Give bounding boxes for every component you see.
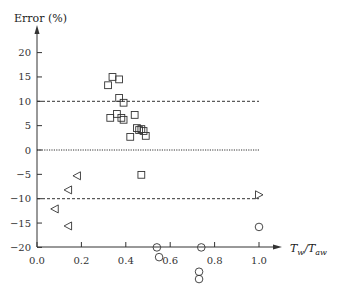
square-marker — [120, 116, 127, 123]
square-marker — [131, 112, 138, 119]
y-tick-label: −10 — [10, 193, 31, 204]
y-tick-label: 15 — [18, 71, 31, 82]
circle-marker — [195, 268, 203, 276]
y-tick-label: 20 — [18, 47, 31, 58]
y-tick-label: −20 — [10, 242, 31, 253]
x-tick-label: 0.6 — [162, 255, 178, 266]
square-marker — [118, 114, 125, 121]
scatter-chart: 20151050−5−10−15−20 0.00.20.40.60.81.0 E… — [0, 0, 338, 293]
y-tick-label: 5 — [25, 120, 31, 131]
x-tick-label: 0.0 — [29, 255, 45, 266]
square-marker — [138, 171, 145, 178]
x-axis-label: Tw/Taw — [290, 242, 327, 257]
triangle-left-marker — [51, 205, 59, 213]
reference-lines — [37, 101, 259, 198]
triangle-left-marker — [64, 222, 72, 230]
square-marker — [127, 133, 134, 140]
y-axis-arrow — [35, 25, 40, 34]
y-tick-label: 10 — [18, 96, 31, 107]
square-marker — [107, 114, 114, 121]
data-points — [51, 74, 263, 283]
x-ticks: 0.00.20.40.60.81.0 — [29, 242, 267, 266]
triangle-left-marker — [64, 186, 72, 194]
circle-marker — [195, 275, 203, 283]
square-marker — [142, 132, 149, 139]
square-marker — [109, 74, 116, 81]
square-marker — [120, 99, 127, 106]
y-tick-label: −15 — [10, 218, 31, 229]
x-tick-label: 1.0 — [251, 255, 267, 266]
square-marker — [116, 76, 123, 83]
x-tick-label: 0.2 — [73, 255, 89, 266]
triangle-left-marker — [73, 172, 81, 180]
y-tick-label: 0 — [25, 145, 31, 156]
x-tick-label: 0.4 — [118, 255, 134, 266]
y-tick-label: −5 — [16, 169, 31, 180]
x-axis-arrow — [273, 245, 282, 250]
circle-marker — [255, 223, 263, 231]
square-marker — [116, 94, 123, 101]
y-axis-label: Error (%) — [14, 12, 67, 25]
square-marker — [114, 111, 121, 118]
x-tick-label: 0.8 — [207, 255, 223, 266]
triangle-right-marker — [256, 191, 264, 199]
axes — [35, 25, 283, 250]
square-marker — [105, 82, 112, 89]
